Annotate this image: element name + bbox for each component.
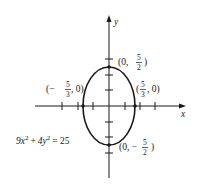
svg-text:5: 5 <box>143 138 147 147</box>
svg-text:5: 5 <box>137 53 141 62</box>
ellipse-equation: 9x2+4y2= 25 <box>16 134 70 146</box>
svg-text:2: 2 <box>137 63 141 72</box>
svg-text:3: 3 <box>141 90 145 99</box>
vertex-left <box>81 104 85 108</box>
svg-text:): ) <box>151 142 154 153</box>
svg-text:(0, −: (0, − <box>119 142 137 153</box>
y-axis: y <box>105 15 119 178</box>
svg-text:): ) <box>144 57 147 68</box>
label-bottom-vertex: (0, − 5 2 ) <box>119 138 154 157</box>
vertex-bottom <box>107 143 111 147</box>
y-axis-label: y <box>113 17 119 27</box>
vertex-right <box>133 104 137 108</box>
label-top-vertex: (0, 5 2 ) <box>118 53 147 72</box>
x-axis-label: x <box>180 109 186 119</box>
ellipse-diagram: x y (0, 5 2 ) (0, − 5 2 <box>0 0 202 185</box>
svg-text:2: 2 <box>143 148 147 157</box>
svg-text:5: 5 <box>141 80 145 89</box>
y-axis-arrow-icon <box>107 15 112 22</box>
svg-text:9x2+4y2= 25: 9x2+4y2= 25 <box>16 134 70 146</box>
label-left-vertex: (− 5 3 , 0) <box>46 80 84 99</box>
label-right-vertex: ( 5 3 , 0) <box>136 80 160 99</box>
x-axis-arrow-icon <box>179 104 186 109</box>
svg-text:, 0): , 0) <box>147 84 160 95</box>
svg-text:(−: (− <box>46 84 55 95</box>
svg-text:(0,: (0, <box>118 57 128 68</box>
vertex-top <box>107 65 111 69</box>
x-axis: x <box>35 102 186 119</box>
svg-text:(: ( <box>136 84 139 95</box>
svg-text:, 0): , 0) <box>71 84 84 95</box>
svg-text:5: 5 <box>66 80 70 89</box>
svg-text:3: 3 <box>66 90 70 99</box>
